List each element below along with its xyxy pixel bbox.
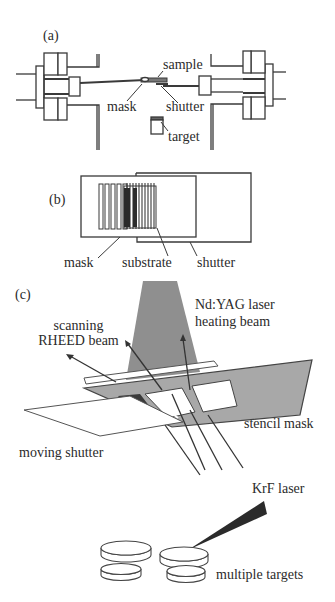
sample-label: sample [163, 57, 203, 72]
stencil-mask-label: stencil mask [244, 416, 314, 431]
panel-c-label: (c) [15, 287, 31, 302]
ndyag-label-line1: Nd:YAG laser [195, 297, 275, 312]
krf-beam [188, 501, 267, 550]
substrate-label: substrate [122, 255, 172, 270]
mask-label-b: mask [64, 255, 94, 270]
panel-a-label: (a) [43, 28, 59, 43]
panel-b-mask-layout [81, 173, 251, 258]
mask-label-a: mask [107, 99, 137, 114]
krf-laser-label: KrF laser [252, 481, 305, 496]
moving-shutter-label: moving shutter [19, 445, 103, 460]
figure-drawing [0, 0, 335, 602]
rheed-label-line2: RHEED beam [26, 333, 131, 348]
ndyag-label-line2: heating beam [195, 314, 270, 329]
rheed-label-line1: scanning [26, 318, 131, 333]
shutter-label-b: shutter [197, 255, 235, 270]
shutter-label-a: shutter [166, 99, 204, 114]
target-label: target [168, 129, 200, 144]
panel-a-chamber [16, 51, 286, 150]
multiple-targets-label: multiple targets [216, 567, 303, 582]
panel-b-label: (b) [49, 192, 65, 207]
